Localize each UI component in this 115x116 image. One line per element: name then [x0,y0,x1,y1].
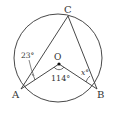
label-C: C [64,4,72,15]
angle-arc-AOB [54,67,64,70]
angle-label-23: 23° [21,51,35,60]
angle-label-114: 114° [51,74,70,83]
label-B: B [97,89,104,100]
segment-CB [68,16,97,89]
geometry-diagram: C A B O 23° 114° x° [0,0,115,116]
angle-label-x: x° [81,68,89,77]
label-A: A [11,89,20,100]
center-point [57,62,60,65]
leader-line-23 [29,60,34,76]
label-O: O [54,52,61,62]
